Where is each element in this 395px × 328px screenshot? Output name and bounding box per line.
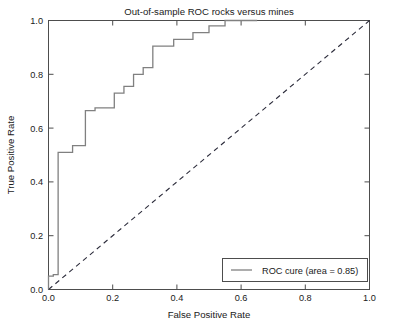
roc-chart-figure: Out-of-sample ROC rocks versus mines [0,0,395,328]
chart-canvas: Out-of-sample ROC rocks versus mines [0,0,395,328]
x-tick-label: 0.0 [42,293,55,303]
y-tick-label: 0.0 [30,285,43,295]
y-tick-label: 1.0 [30,16,43,26]
x-axis-ticks-top [49,21,370,26]
chart-legend: ROC cure (area = 0.85) [223,259,368,282]
roc-curve-line [49,21,258,290]
chart-title: Out-of-sample ROC rocks versus mines [124,6,294,17]
y-axis-label: True Positive Rate [5,116,16,195]
x-tick-label: 1.0 [363,293,376,303]
x-tick-label: 0.6 [235,293,248,303]
x-tick-label: 0.4 [171,293,184,303]
y-axis-ticks-right [365,21,370,290]
x-tick-label: 0.8 [299,293,312,303]
x-tick-label: 0.2 [106,293,119,303]
y-axis-ticks [49,21,54,290]
x-axis-label: False Positive Rate [168,309,251,320]
chance-diagonal-line [49,21,370,290]
y-tick-label: 0.6 [30,124,43,134]
x-axis-tick-labels: 0.0 0.2 0.4 0.6 0.8 1.0 [42,293,376,303]
y-tick-label: 0.4 [30,177,43,187]
y-axis-tick-labels: 0.0 0.2 0.4 0.6 0.8 1.0 [30,16,43,295]
y-tick-label: 0.2 [30,231,43,241]
x-axis-ticks [49,285,370,290]
y-tick-label: 0.8 [30,70,43,80]
legend-entry-label: ROC cure (area = 0.85) [262,266,358,276]
